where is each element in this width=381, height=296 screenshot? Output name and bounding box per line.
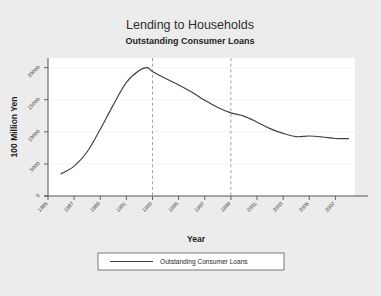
chart-title: Lending to Households — [126, 18, 254, 32]
y-axis-title: 100 Million Yen — [9, 97, 19, 158]
legend: Outstanding Consumer Loans — [98, 253, 284, 270]
chart-svg: Lending to Households Outstanding Consum… — [0, 0, 381, 296]
x-axis-title: Year — [187, 234, 206, 244]
chart-subtitle: Outstanding Consumer Loans — [125, 36, 254, 46]
chart-figure: Lending to Households Outstanding Consum… — [0, 0, 381, 296]
legend-label-outstanding-consumer-loans: Outstanding Consumer Loans — [160, 258, 248, 266]
plot-area-background — [48, 58, 355, 196]
